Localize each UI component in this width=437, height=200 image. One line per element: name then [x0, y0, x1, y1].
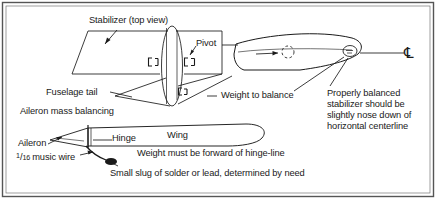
- label-pivot: Pivot: [196, 38, 216, 49]
- label-aileron: Aileron: [18, 138, 46, 149]
- music-wire-text: music wire: [32, 152, 75, 162]
- cg-arrow-head: [273, 51, 279, 56]
- pivot-bracket-left-outer: [149, 58, 153, 66]
- solder-slug: [105, 158, 117, 165]
- label-wing: Wing: [167, 130, 188, 141]
- label-properly-balanced: Properly balanced stabilizer should be s…: [327, 88, 427, 132]
- pivot-bracket-right-outer: [185, 58, 189, 66]
- leader-weight-line: [294, 57, 344, 91]
- pivot-bracket-left-inner: [155, 59, 158, 66]
- music-wire-numerator: 1: [16, 151, 20, 160]
- airfoil-chord-line: [238, 49, 352, 52]
- label-hinge: Hinge: [112, 133, 136, 144]
- airfoil-section-outline: [234, 34, 361, 70]
- stabilizer-aileron-balancing-figure: Stabilizer (top view) Pivot Fuselage tai…: [0, 0, 437, 200]
- aileron-planform: [50, 128, 88, 147]
- label-weight-forward-of-hinge: Weight must be forward of hinge-line: [137, 148, 285, 159]
- center-of-gravity-marker: [282, 46, 294, 58]
- leader-fuselage-tail: [110, 92, 132, 97]
- label-aileron-mass-balancing: Aileron mass balancing: [20, 106, 114, 117]
- nose-weight-hatch: [346, 51, 353, 54]
- label-stabilizer-top-view: Stabilizer (top view): [89, 15, 168, 26]
- label-weight-to-balance: Weight to balance: [221, 90, 294, 101]
- centerline-symbol: ℄: [404, 44, 414, 62]
- tail-boom-upper: [115, 78, 166, 96]
- label-fuselage-tail: Fuselage tail: [46, 87, 97, 98]
- music-wire-fraction: 1/16: [16, 150, 30, 163]
- stab-tip-left: [72, 31, 88, 74]
- pivot-bracket-lower-inner: [184, 89, 187, 95]
- tail-boom-lower: [115, 96, 170, 106]
- label-small-slug: Small slug of solder or lead, determined…: [110, 168, 305, 179]
- nose-balance-weight: [343, 46, 357, 57]
- fuselage-pod-outline: [162, 26, 183, 106]
- music-wire-denominator: 16: [22, 153, 30, 162]
- label-music-wire: 1/16music wire: [16, 150, 75, 163]
- pivot-bracket-right-inner: [191, 59, 195, 66]
